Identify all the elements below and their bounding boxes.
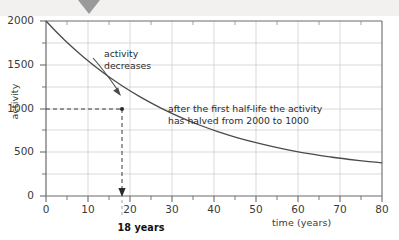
y-tick-label-2000: 2000 xyxy=(0,14,34,26)
annotation-activity-decreases-line1: activity xyxy=(104,48,151,60)
x-tick-label-40: 40 xyxy=(199,203,229,215)
annotation-activity-decreases: activity decreases xyxy=(104,48,151,72)
y-tick-label-1500: 1500 xyxy=(0,58,34,70)
figure-root: activity time (years) 2000 1500 1000 500… xyxy=(0,0,399,240)
y-tick-label-500: 500 xyxy=(0,145,34,157)
y-major-ticks xyxy=(40,21,46,196)
x-tick-label-80: 80 xyxy=(367,203,397,215)
x-major-ticks xyxy=(46,196,382,202)
y-tick-label-0: 0 xyxy=(0,189,34,201)
x-tick-label-60: 60 xyxy=(283,203,313,215)
x-tick-label-50: 50 xyxy=(241,203,271,215)
y-tick-label-1000: 1000 xyxy=(0,102,34,114)
annotation-half-life-line1: after the first half-life the activity xyxy=(168,103,322,115)
annotation-half-life: after the first half-life the activity h… xyxy=(168,103,322,127)
x-tick-label-20: 20 xyxy=(115,203,145,215)
x-tick-label-10: 10 xyxy=(73,203,103,215)
activity-decreases-arrowhead-icon xyxy=(113,88,121,96)
x-axis-label: time (years) xyxy=(272,217,331,228)
x-tick-label-0: 0 xyxy=(31,203,61,215)
decay-chart: activity time (years) 2000 1500 1000 500… xyxy=(0,0,399,240)
x-tick-label-70: 70 xyxy=(325,203,355,215)
annotation-activity-decreases-line2: decreases xyxy=(104,60,151,72)
half-life-axis-annotation: 18 years xyxy=(106,222,176,233)
half-life-point-marker xyxy=(120,107,124,111)
annotation-half-life-line2: has halved from 2000 to 1000 xyxy=(168,115,322,127)
x-tick-label-30: 30 xyxy=(157,203,187,215)
